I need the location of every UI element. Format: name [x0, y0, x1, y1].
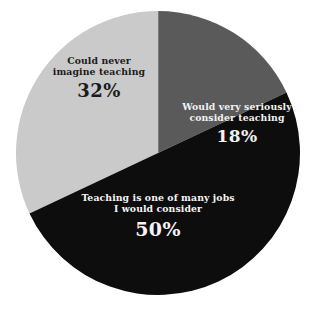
pie-label-value: 18%	[172, 126, 302, 147]
pie-label-teaching-is-one-of-many-jobs: Teaching is one of many jobs I would con…	[47, 192, 269, 241]
pie-chart-svg	[0, 0, 316, 309]
pie-label-line-1: Teaching is one of many jobs	[47, 192, 269, 203]
pie-label-line-2: imagine teaching	[38, 66, 160, 77]
pie-label-line-2: I would consider	[47, 203, 269, 214]
pie-label-line-2: consider teaching	[172, 112, 302, 123]
pie-label-line-1: Would very seriously	[172, 101, 302, 112]
pie-label-value: 32%	[38, 80, 160, 102]
pie-label-would-very-seriously-consider-teaching: Would very seriously consider teaching 1…	[172, 101, 302, 146]
pie-label-could-never-imagine-teaching: Could never imagine teaching 32%	[38, 55, 160, 102]
pie-label-value: 50%	[47, 218, 269, 241]
pie-chart-figure: Could never imagine teaching 32% Would v…	[0, 0, 316, 309]
pie-label-line-1: Could never	[38, 55, 160, 66]
